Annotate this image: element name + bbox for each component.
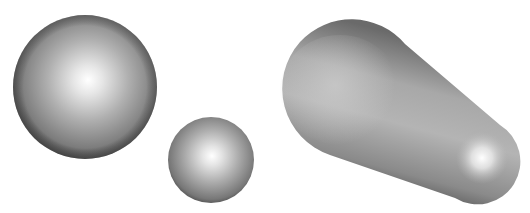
tapered-capsule bbox=[280, 19, 520, 204]
small-sphere bbox=[168, 117, 254, 203]
shapes-scene bbox=[0, 0, 530, 213]
large-sphere bbox=[13, 15, 157, 159]
